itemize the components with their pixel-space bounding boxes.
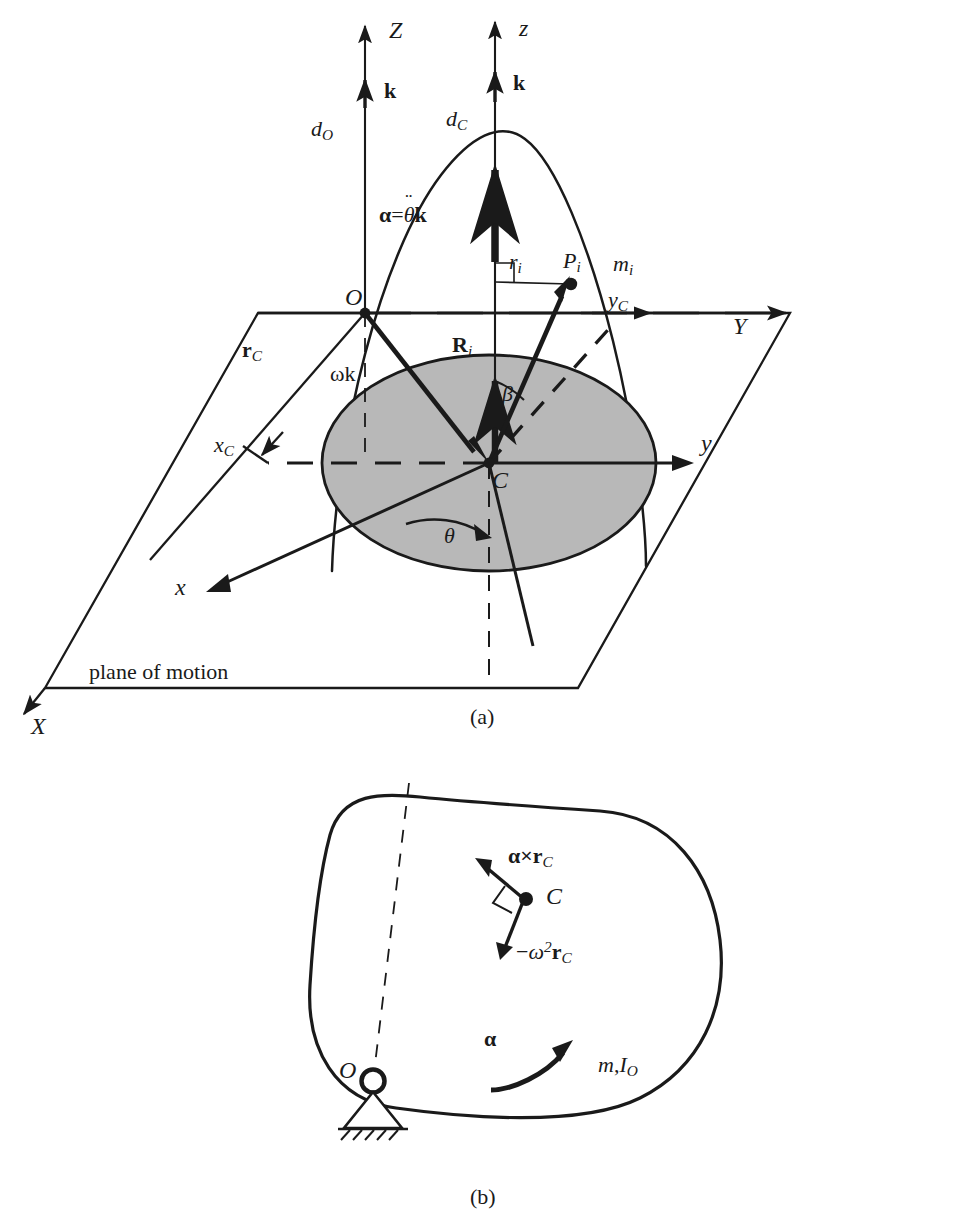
unit-vector-label-k-body: k: [513, 72, 525, 94]
plane-of-motion-label: plane of motion: [89, 661, 228, 683]
angle-label-theta: θ: [444, 525, 455, 547]
angular-acceleration-label: α=θk: [379, 204, 427, 226]
unit-vector-label-k-global: k: [384, 80, 396, 102]
radius-ri-line: [495, 282, 570, 284]
axis-label-x: x: [175, 575, 186, 599]
point-label-Pi: Pi: [563, 250, 581, 275]
axis-label-z: z: [519, 16, 528, 40]
point-label-C-b: C: [546, 884, 562, 908]
point-Pi-marker: [565, 278, 577, 290]
technical-figure: Z z k k dO dC α=θk ri Pi mi O yC Y rC Ri…: [0, 0, 967, 1228]
angular-velocity-label: ωk: [330, 363, 355, 385]
axis-label-Z: Z: [389, 18, 402, 42]
height-label-dO: dO: [311, 118, 333, 143]
mass-label-mi: mi: [613, 253, 633, 278]
radius-label-ri: ri: [509, 251, 522, 276]
height-label-dC: dC: [446, 108, 467, 133]
axis-label-yC: yC: [608, 289, 628, 314]
angular-acceleration-label-b: α: [484, 1028, 496, 1050]
vector-label-centripetal: −ω2rC: [516, 939, 572, 966]
point-label-O-b: O: [339, 1058, 356, 1082]
axis-label-xC: xC: [214, 434, 234, 459]
caption-a: (a): [470, 706, 494, 728]
vector-label-Ri: Ri: [452, 334, 472, 359]
point-C-marker-b: [519, 892, 533, 906]
point-label-C: C: [492, 468, 508, 492]
caption-b: (b): [470, 1186, 496, 1208]
panel-a-graphics: [24, 22, 790, 714]
axis-label-y: y: [701, 431, 712, 455]
axis-X: [24, 688, 45, 714]
vector-label-rC: rC: [242, 339, 262, 364]
axis-label-X: X: [31, 714, 46, 738]
axis-label-Y: Y: [733, 314, 746, 338]
vector-label-alpha-cross-rC: α×rC: [508, 845, 553, 870]
body-properties-label: m,IO: [598, 1054, 638, 1079]
angle-label-beta: β: [502, 383, 513, 405]
point-label-O: O: [345, 285, 362, 309]
